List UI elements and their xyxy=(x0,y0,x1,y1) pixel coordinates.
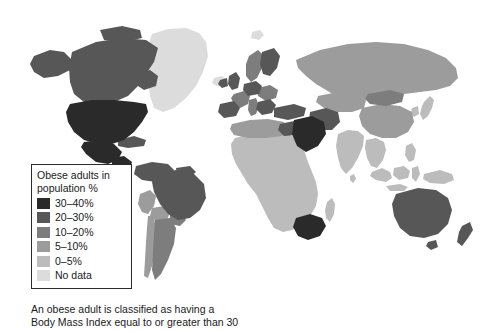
map-caption: An obese adult is classified as having a… xyxy=(31,303,361,329)
region-java xyxy=(386,184,408,191)
region-balkans-greece xyxy=(256,99,276,115)
region-borneo xyxy=(393,166,410,180)
region-greenland xyxy=(147,28,208,112)
region-russia xyxy=(296,42,458,100)
legend-swatch-10-20 xyxy=(37,227,50,238)
region-china xyxy=(359,104,414,138)
legend-title: Obese adults in population % xyxy=(37,169,126,194)
region-new-guinea xyxy=(423,170,454,184)
region-turkey xyxy=(274,104,306,120)
legend-swatch-no-data xyxy=(37,270,50,281)
legend-item-no-data: No data xyxy=(37,269,126,284)
legend-label-10-20: 10–20% xyxy=(55,227,94,238)
legend-swatch-30-40 xyxy=(37,198,50,209)
region-sri-lanka xyxy=(350,174,356,183)
legend-item-5-10: 5–10% xyxy=(37,240,126,255)
legend-swatch-0-5 xyxy=(37,256,50,267)
region-svalbard xyxy=(251,30,264,40)
region-australia xyxy=(392,188,452,238)
region-japan xyxy=(420,96,434,120)
legend-item-0-5: 0–5% xyxy=(37,254,126,269)
legend-label-30-40: 30–40% xyxy=(55,198,94,209)
region-philippines xyxy=(405,143,416,162)
legend-swatch-20-30 xyxy=(37,212,50,223)
legend-item-20-30: 20–30% xyxy=(37,211,126,226)
region-south-africa xyxy=(293,214,326,240)
region-southeast-asia xyxy=(365,138,386,168)
world-obesity-map-figure: Obese adults in population % 30–40% 20–3… xyxy=(0,0,482,332)
legend-swatch-5-10 xyxy=(37,241,50,252)
region-indonesia-sumatra xyxy=(370,168,392,182)
region-sulawesi xyxy=(412,166,420,182)
map-legend: Obese adults in population % 30–40% 20–3… xyxy=(31,164,132,289)
region-alaska xyxy=(30,50,72,78)
legend-label-0-5: 0–5% xyxy=(55,256,82,267)
legend-label-20-30: 20–30% xyxy=(55,212,94,223)
region-india xyxy=(336,130,364,174)
legend-item-10-20: 10–20% xyxy=(37,225,126,240)
region-new-zealand xyxy=(457,222,473,246)
region-canada xyxy=(69,38,158,104)
legend-label-5-10: 5–10% xyxy=(55,241,88,252)
region-madagascar xyxy=(325,198,335,222)
region-tasmania xyxy=(426,240,438,250)
region-argentina xyxy=(152,218,176,280)
legend-label-no-data: No data xyxy=(55,270,92,281)
region-united-kingdom xyxy=(228,72,240,90)
legend-item-30-40: 30–40% xyxy=(37,196,126,211)
region-finland xyxy=(260,48,280,76)
